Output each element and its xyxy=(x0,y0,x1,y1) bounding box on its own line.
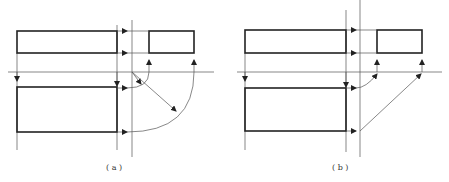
panel-a: ( a ) xyxy=(8,20,214,172)
diagonal-arrow-long xyxy=(132,72,176,111)
top-view-rect xyxy=(17,87,117,132)
side-view-rect xyxy=(149,31,194,53)
front-view-rect xyxy=(17,31,117,53)
arc-large xyxy=(127,60,194,132)
projection-diagram: ( a ) ( b ) xyxy=(0,0,449,182)
curve-small xyxy=(356,74,377,88)
top-view-rect xyxy=(245,88,346,131)
caption-a: ( a ) xyxy=(106,163,122,172)
side-view-rect xyxy=(377,30,422,53)
panel-b: ( b ) xyxy=(237,0,442,172)
caption-b: ( b ) xyxy=(332,163,348,172)
front-view-rect xyxy=(245,30,346,53)
diagonal-arrow-short xyxy=(132,72,141,84)
